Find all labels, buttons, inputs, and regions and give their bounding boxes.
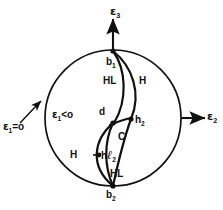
point-label-b2-subscript: 2 — [112, 195, 116, 202]
region-label-hl-lower: HL — [110, 169, 123, 179]
condition-label-e1-equals-zero: ε1=o — [3, 122, 24, 135]
axis-label-e3: ε3 — [110, 6, 120, 19]
axis-label-e2: ε2 — [207, 111, 217, 124]
point-label-d: d — [99, 107, 105, 117]
axis-label-e3-subscript: 3 — [116, 11, 120, 20]
point-label-hl2-subscript: 2 — [112, 156, 116, 163]
region-label-hl-upper: HL — [103, 76, 116, 86]
point-label-h-ell-2: hℓ2 — [101, 149, 116, 164]
region-label-c-middle: C — [118, 132, 125, 142]
point-label-d-symbol: d — [99, 106, 105, 117]
point-marker-b2 — [110, 183, 115, 188]
point-label-b1-subscript: 1 — [112, 62, 116, 69]
point-marker-b1 — [110, 48, 115, 53]
pointer-arrow-e1-eq-0 — [20, 101, 41, 123]
point-label-h2-subscript: 2 — [141, 120, 145, 127]
condition-e1-eq-relation: =o — [12, 121, 24, 132]
axis-label-e2-subscript: 2 — [213, 116, 217, 125]
condition-e1-lt-relation: <o — [61, 109, 73, 120]
point-label-b2: b2 — [106, 190, 116, 203]
point-label-h2: h2 — [135, 115, 145, 128]
point-label-b1: b1 — [106, 57, 116, 70]
point-marker-h2 — [128, 116, 133, 121]
region-label-h-upper: H — [139, 76, 146, 86]
condition-label-e1-less-than-zero: ε1<o — [52, 110, 73, 123]
region-label-h-lower: H — [70, 150, 77, 160]
point-marker-d — [110, 120, 115, 125]
figure-canvas: ε3 ε2 ε1=o ε1<o b1 b2 h2 d hℓ2 HL H C H … — [0, 0, 223, 210]
